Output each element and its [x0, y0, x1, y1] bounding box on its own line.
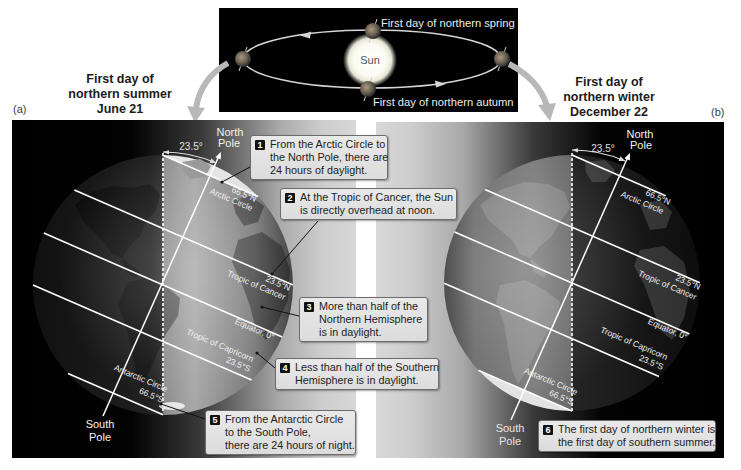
figure-graphics: Sun First day of northern spring First d… — [0, 0, 741, 470]
callout-text: More than half of the — [319, 300, 423, 313]
callout-text: Hemisphere is in daylight. — [295, 374, 434, 387]
autumn-label: First day of northern autumn — [373, 96, 514, 108]
south-pole-label-a: Pole — [89, 431, 111, 443]
callout-text: Northern Hemisphere — [319, 313, 423, 326]
callout-text: 24 hours of daylight. — [270, 164, 383, 177]
callout-text: The first day of northern winter is — [558, 423, 711, 436]
panel-a-letter: (a) — [13, 103, 26, 115]
panel-b-title-line: northern winter — [563, 90, 655, 104]
panel-b: 23.5° North Pole South Pole 66.5°N Arcti… — [376, 122, 724, 458]
step-badge: 5 — [210, 415, 220, 425]
callout-text: From the Arctic Circle to — [270, 138, 383, 151]
callout-1-arctic-daylight: 1 From the Arctic Circle to the North Po… — [250, 135, 388, 180]
orbit-diagram: Sun First day of northern spring First d… — [219, 8, 518, 112]
panel-a-date: June 21 — [97, 102, 144, 116]
callout-6-winter-summer: 6 The first day of northern winter is th… — [538, 420, 716, 452]
north-pole-label-b: Pole — [630, 139, 652, 151]
callout-4-southern-hemisphere: 4 Less than half of the Southern Hemisph… — [275, 358, 439, 390]
south-pole-label-a: South — [86, 418, 115, 430]
tilt-angle-label-a: 23.5° — [179, 141, 202, 152]
callout-text: From the Antarctic Circle — [225, 413, 351, 426]
callout-5-antarctic-night: 5 From the Antarctic Circle to the South… — [205, 410, 356, 455]
arrow-to-panel-b-head-icon — [538, 103, 556, 121]
callout-text: Less than half of the Southern — [295, 361, 434, 374]
callout-text: is directly overhead at noon. — [300, 204, 452, 217]
step-badge: 6 — [543, 425, 553, 435]
earth-december-icon — [494, 51, 510, 67]
panel-a-title-line: northern summer — [68, 87, 172, 101]
tilt-angle-label-b: 23.5° — [591, 143, 614, 154]
step-badge: 2 — [285, 193, 295, 203]
panel-b-title-line: First day of — [575, 75, 643, 89]
earth-seasons-figure: Sun First day of northern spring First d… — [0, 0, 741, 470]
panel-b-date: December 22 — [570, 105, 648, 119]
callout-text: the North Pole, there are — [270, 151, 383, 164]
earth-march-icon — [365, 23, 381, 39]
south-pole-label-b: South — [496, 422, 525, 434]
south-pole-label-b: Pole — [499, 435, 521, 447]
callout-3-northern-hemisphere: 3 More than half of the Northern Hemisph… — [299, 297, 428, 342]
panel-a-title-line: First day of — [86, 72, 154, 86]
callout-text: At the Tropic of Cancer, the Sun — [300, 191, 452, 204]
callout-text: to the South Pole, — [225, 426, 351, 439]
sun-label: Sun — [360, 54, 380, 66]
callout-text: there are 24 hours of night. — [225, 439, 351, 452]
earth-september-icon — [360, 81, 376, 97]
callout-2-tropic-of-cancer: 2 At the Tropic of Cancer, the Sun is di… — [280, 188, 457, 220]
callout-text: is in daylight. — [319, 326, 423, 339]
panel-b-title: First day of northern winter December 22… — [563, 75, 724, 119]
step-badge: 4 — [280, 363, 290, 373]
panel-b-letter: (b) — [711, 106, 724, 118]
callout-text: the first day of southern summer. — [558, 436, 711, 449]
north-pole-label-a: Pole — [218, 137, 240, 149]
spring-label: First day of northern spring — [381, 17, 515, 29]
step-badge: 1 — [255, 140, 265, 150]
earth-june-icon — [235, 51, 251, 67]
panel-a-title: First day of northern summer June 21 (a) — [13, 72, 172, 116]
step-badge: 3 — [304, 302, 314, 312]
